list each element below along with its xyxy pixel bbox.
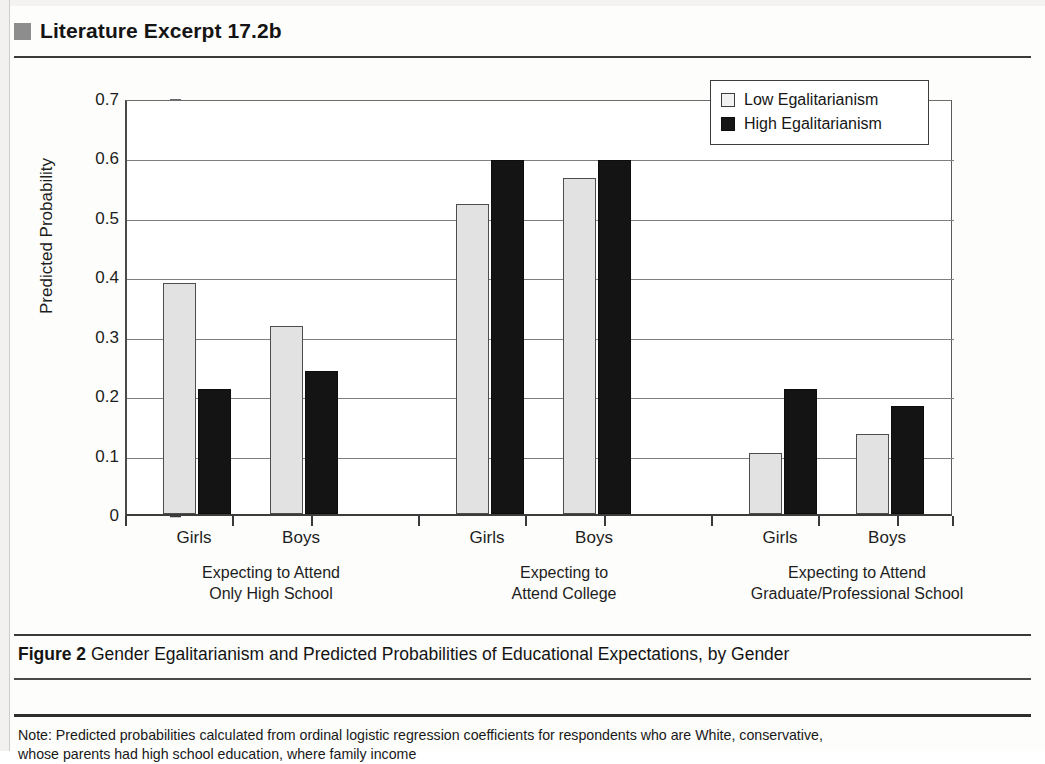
legend-item-high: High Egalitarianism [721,112,918,136]
note-divider [14,714,1031,717]
figure-note: Note: Predicted probabilities calculated… [18,726,1030,764]
x-axis-tick-mark [604,516,606,526]
legend-item-low: Low Egalitarianism [721,88,918,112]
figure-caption-text: Gender Egalitarianism and Predicted Prob… [91,644,789,664]
bar-high [784,389,817,514]
y-axis-tick-label: 0.6 [73,149,119,169]
gridline [127,398,954,399]
bar-high [305,371,338,514]
x-axis-group-label-line1: Expecting to Attend [111,562,431,583]
bar-high [198,389,231,514]
y-axis-title: Predicted Probability [37,141,57,331]
x-axis-gender-label: Boys [549,528,639,548]
bar-high [491,160,524,514]
x-axis-tick-mark [818,516,820,526]
bar-low [563,178,596,514]
y-axis-tick-label: 0.1 [73,447,119,467]
x-axis-tick-mark [897,516,899,526]
figure-label: Figure 2 [18,644,86,664]
y-axis-tick-label: 0.4 [73,268,119,288]
bar-low [749,453,782,514]
bar-chart: Predicted Probability 0.70.60.50.40.30.2… [14,62,1031,632]
gridline [127,279,954,280]
y-axis-tick-label: 0.2 [73,387,119,407]
page-title: Literature Excerpt 17.2b [40,19,282,43]
x-axis-group-label-line1: Expecting to [404,562,724,583]
caption-divider-top [14,634,1031,636]
x-axis-gender-label: Girls [149,528,239,548]
legend-label-high: High Egalitarianism [744,115,882,133]
y-axis-tick-label: 0.3 [73,328,119,348]
bar-low [270,326,303,514]
bar-low [456,204,489,514]
gridline [127,339,954,340]
square-bullet-icon [14,23,31,40]
gridline [127,220,954,221]
x-axis-gender-label: Boys [256,528,346,548]
x-axis-group-label-line1: Expecting to Attend [697,562,1017,583]
x-axis-tick-mark [418,516,420,526]
excerpt-header: Literature Excerpt 17.2b [14,14,1024,48]
bar-low [856,434,889,514]
scan-edge-left [0,0,10,751]
x-axis-gender-label: Girls [442,528,532,548]
x-axis-group-label: Expecting to AttendGraduate/Professional… [697,562,1017,604]
x-axis-group-label-line2: Graduate/Professional School [697,583,1017,604]
legend-swatch-high-icon [721,117,735,131]
y-axis-tick-label: 0.7 [73,90,119,110]
gridline [127,458,954,459]
note-line-1: Note: Predicted probabilities calculated… [18,726,1030,745]
figure-area: Predicted Probability 0.70.60.50.40.30.2… [14,62,1031,632]
gridline [127,160,954,161]
y-axis-tick-label: 0.5 [73,209,119,229]
legend-swatch-low-icon [721,93,735,107]
x-axis-group-label: Expecting to AttendOnly High School [111,562,431,604]
bar-low [163,283,196,514]
plot-area [125,100,952,516]
y-axis-tick-label: 0 [73,506,119,526]
x-axis-tick-mark [952,516,954,526]
x-axis-tick-mark [232,516,234,526]
x-axis-group-label: Expecting toAttend College [404,562,724,604]
x-axis-tick-mark [311,516,313,526]
scan-edge-top [0,0,1045,6]
x-axis-group-label-line2: Attend College [404,583,724,604]
chart-legend: Low Egalitarianism High Egalitarianism [710,80,929,145]
x-axis-tick-mark [125,516,127,526]
figure-caption: Figure 2 Gender Egalitarianism and Predi… [18,644,1028,665]
note-line-2: whose parents had high school education,… [18,745,1030,764]
x-axis-gender-label: Girls [735,528,825,548]
bar-high [891,406,924,514]
x-axis-tick-mark [711,516,713,526]
y-axis-ticks: 0.70.60.50.40.30.20.10 [66,100,119,516]
bar-high [598,160,631,514]
caption-divider-bottom [14,678,1031,680]
x-axis-gender-label: Boys [842,528,932,548]
x-axis-tick-mark [525,516,527,526]
header-divider [14,56,1031,58]
x-axis-group-label-line2: Only High School [111,583,431,604]
legend-label-low: Low Egalitarianism [744,91,878,109]
